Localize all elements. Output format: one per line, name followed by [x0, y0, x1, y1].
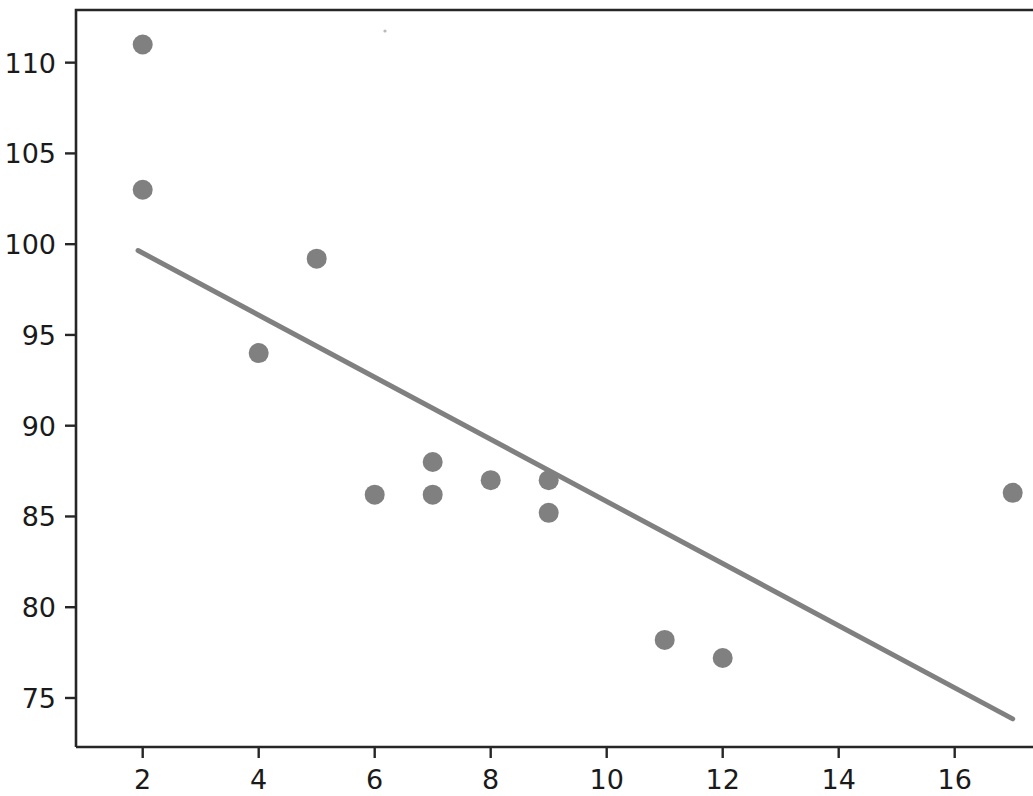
data-point-marker	[481, 470, 501, 490]
data-point-marker	[249, 343, 269, 363]
y-tick-label: 80	[22, 592, 56, 623]
x-tick-label: 10	[590, 764, 624, 795]
y-tick-label: 105	[4, 138, 56, 169]
y-tick-label: 75	[22, 683, 56, 714]
data-point-marker	[133, 34, 153, 54]
plot-canvas: 7580859095100105110 246810121416	[0, 0, 1033, 796]
data-point-marker	[539, 503, 559, 523]
data-point-marker	[365, 485, 385, 505]
x-axis-ticks	[143, 747, 955, 758]
y-tick-label: 85	[22, 501, 56, 532]
y-tick-label: 100	[4, 229, 56, 260]
x-tick-label: 12	[706, 764, 740, 795]
regression-trendline	[138, 251, 1013, 719]
x-tick-label: 14	[822, 764, 856, 795]
data-point-marker	[133, 180, 153, 200]
y-axis-ticks	[65, 63, 76, 698]
scatter-data-points	[133, 34, 1023, 668]
x-tick-label: 4	[250, 764, 267, 795]
data-point-marker	[713, 648, 733, 668]
data-point-marker	[423, 485, 443, 505]
x-tick-label: 2	[134, 764, 151, 795]
x-axis-tick-labels: 246810121416	[134, 764, 972, 795]
y-tick-label: 95	[22, 320, 56, 351]
y-tick-label: 110	[4, 48, 56, 79]
x-tick-label: 16	[938, 764, 972, 795]
x-tick-label: 6	[366, 764, 383, 795]
y-tick-label: 90	[22, 411, 56, 442]
data-point-marker	[1003, 483, 1023, 503]
x-tick-label: 8	[482, 764, 499, 795]
data-point-marker	[539, 470, 559, 490]
data-point-marker	[423, 452, 443, 472]
axes-frame	[76, 10, 1033, 747]
data-point-marker	[655, 630, 675, 650]
scatter-plot-figure: 7580859095100105110 246810121416	[0, 0, 1033, 796]
data-point-marker	[307, 249, 327, 269]
y-axis-tick-labels: 7580859095100105110	[4, 48, 56, 714]
scan-speck	[383, 29, 386, 32]
